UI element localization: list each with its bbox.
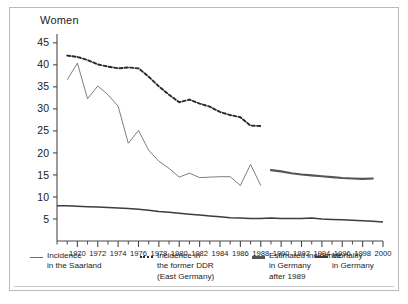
y-tick-label: 5 <box>43 213 49 225</box>
series-line-ddr <box>67 56 261 126</box>
y-tick-label: 30 <box>37 102 49 114</box>
y-tick-label: 45 <box>37 36 49 48</box>
thick-bar-marker-icon <box>252 256 265 263</box>
thin-solid-marker-icon <box>30 257 43 262</box>
y-tick-label: 25 <box>37 124 49 136</box>
series-line-saarland <box>67 63 261 185</box>
y-tick-label: 40 <box>37 58 49 70</box>
data-series-group <box>57 56 383 222</box>
y-tick-label: 35 <box>37 80 49 92</box>
legend-label: Incidence in the Saarland <box>47 251 101 272</box>
footer-divider <box>14 286 394 287</box>
series-line-mortality <box>57 206 383 222</box>
y-tick-label: 20 <box>37 147 49 159</box>
mortality-marker-icon <box>315 256 328 262</box>
legend-label: Incidence in the former DDR (East German… <box>157 251 214 282</box>
legend-label: Estimated incidence in Germany after 198… <box>269 251 341 282</box>
dotted-marker-icon <box>140 256 153 262</box>
y-tick-label: 15 <box>37 169 49 181</box>
chart-figure: Women 51015202530354045 1970197219741976… <box>0 0 408 304</box>
legend-label: Mortality in Germany <box>332 251 374 272</box>
chart-axes <box>57 34 383 241</box>
y-tick-group: 51015202530354045 <box>37 36 57 224</box>
series-line-estimated <box>271 170 373 179</box>
y-tick-label: 10 <box>37 191 49 203</box>
